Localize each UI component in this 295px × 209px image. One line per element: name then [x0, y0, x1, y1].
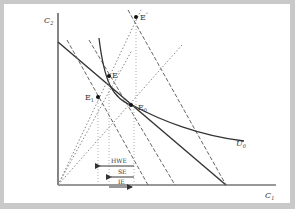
point-e1	[96, 95, 100, 99]
budget-line	[58, 42, 226, 185]
point-e-prime	[107, 74, 111, 78]
dashed-budget-line-3	[128, 10, 226, 185]
label-e-double-prime: E″	[140, 11, 149, 22]
ie-label: IE	[118, 178, 125, 185]
dotted-ray-3	[58, 50, 132, 185]
point-e0	[129, 103, 133, 107]
y-axis-label: C2	[44, 16, 53, 26]
indifference-curve	[99, 38, 244, 141]
se-label: SE	[118, 168, 127, 175]
dashed-budget-line-1	[67, 40, 148, 185]
label-e-prime: E′	[112, 69, 120, 80]
diagram-canvas: C2 C1 U0 E″ E′ E1 E0 HWE SE IE	[0, 0, 295, 209]
label-e1: E1	[85, 93, 94, 103]
indifference-label: U0	[236, 139, 247, 149]
dotted-ray-2	[58, 45, 182, 185]
label-e0: E0	[138, 103, 147, 113]
x-axis-label: C1	[265, 191, 274, 201]
dashed-budget-line-2	[89, 40, 175, 185]
hwe-label: HWE	[111, 157, 127, 164]
point-e-double-prime	[134, 15, 138, 19]
